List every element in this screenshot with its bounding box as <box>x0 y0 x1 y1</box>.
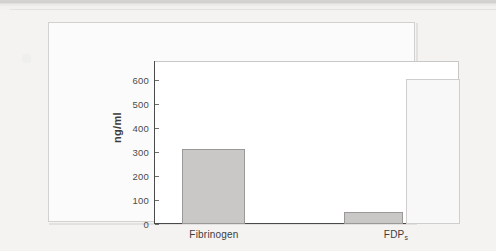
y-tick-mark <box>155 176 159 177</box>
y-tick-mark <box>155 80 159 81</box>
y-tick-mark <box>155 152 159 153</box>
y-tick-label: 200 <box>133 171 149 182</box>
figure-panel: ng/ml 0100200300400500600 FibrinogenFDPs <box>48 22 415 222</box>
y-tick-label: 600 <box>133 75 149 86</box>
y-tick-mark <box>155 200 159 201</box>
y-tick-mark <box>155 104 159 105</box>
y-tick-label: 100 <box>133 195 149 206</box>
y-tick-mark <box>155 224 159 225</box>
page-top-rule-secondary <box>0 4 496 6</box>
bar-fdps-open <box>406 79 460 224</box>
bar-fibrinogen-filled <box>182 149 245 225</box>
y-tick-label: 0 <box>144 219 149 230</box>
scan-artifact <box>22 54 31 63</box>
y-tick-label: 500 <box>133 99 149 110</box>
x-category-label-fdps: FDPs <box>384 229 408 240</box>
y-tick-mark <box>155 128 159 129</box>
bar-fdps-filled <box>344 212 403 224</box>
y-tick-label: 300 <box>133 147 149 158</box>
plot-area-wrapper: 0100200300400500600 <box>154 61 460 224</box>
y-tick-label: 400 <box>133 123 149 134</box>
x-category-label-fibrinogen: Fibrinogen <box>189 229 238 240</box>
y-axis-title: ng/ml <box>111 112 123 143</box>
x-category-label-subscript: s <box>404 234 408 241</box>
